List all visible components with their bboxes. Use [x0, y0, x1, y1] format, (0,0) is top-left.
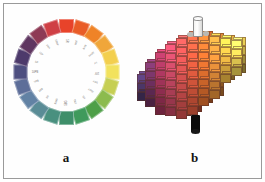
hue-label: 5R [65, 39, 68, 42]
color-solid-graphic [133, 12, 257, 138]
panel-a-caption: a [4, 150, 128, 166]
color-chip-cube [198, 97, 209, 106]
panel-color-solid: b [128, 0, 261, 182]
panel-b-caption: b [128, 150, 261, 166]
hue-label: 5Y [94, 61, 98, 65]
hue-label: 10RP [54, 39, 59, 46]
cube-front-face [187, 106, 198, 115]
neutral-gray-knob [203, 31, 209, 36]
cube-side-face [242, 46, 247, 55]
hue-label: 10B [38, 88, 44, 93]
cube-front-face [165, 107, 176, 116]
hue-circle-graphic: 5R10R5YR10YR5Y10Y5GY10GY5G10G5BG10BG5B10… [10, 16, 122, 128]
cube-front-face [176, 110, 187, 119]
cube-front-face [198, 97, 209, 106]
white-value-axis-cylinder [193, 18, 203, 37]
color-chip-cube [165, 107, 176, 116]
hue-label: 10Y [95, 71, 100, 74]
color-chip-cube [231, 67, 242, 76]
hue-label: 10BG [54, 98, 59, 105]
cube-side-face [242, 55, 247, 64]
hue-label: 5B [46, 95, 50, 99]
hue-label: 10YR [88, 51, 95, 57]
color-chip-cube [187, 106, 198, 115]
hue-chip-ring: 5R10R5YR10YR5Y10Y5GY10GY5G10G5BG10BG5B10… [10, 16, 122, 128]
hue-label: 10PB [32, 71, 38, 74]
color-solid-cubes [133, 12, 257, 138]
hue-chip [13, 65, 27, 80]
hue-label: 5P [35, 61, 39, 65]
color-chip-cube [209, 90, 220, 99]
hue-label: 10R [73, 40, 77, 45]
cube-side-face [242, 64, 247, 73]
cube-front-face [220, 74, 231, 83]
hue-label: 5BG [65, 100, 68, 105]
cube-side-face [242, 37, 247, 46]
white-axis-top-cap [193, 16, 203, 21]
hue-label: 5YR [82, 44, 87, 50]
cube-side-face [220, 87, 225, 96]
hue-label: 10GY [88, 87, 95, 93]
hue-label: 10P [38, 51, 44, 56]
figure-container: 5R10R5YR10YR5Y10Y5GY10GY5G10G5BG10BG5B10… [0, 0, 265, 182]
hue-label: 5RP [45, 44, 50, 50]
black-axis-bottom-cap [191, 129, 200, 134]
color-chip-cube [176, 110, 187, 119]
cube-front-face [209, 90, 220, 99]
color-chip-cube [220, 74, 231, 83]
panel-hue-circle: 5R10R5YR10YR5Y10Y5GY10GY5G10G5BG10BG5B10… [4, 0, 128, 182]
hue-label: 5PB [34, 79, 40, 83]
hue-label: 5G [82, 95, 86, 100]
hue-label: 10G [73, 99, 77, 105]
cube-front-face [231, 67, 242, 76]
hue-label: 5GY [93, 79, 99, 83]
